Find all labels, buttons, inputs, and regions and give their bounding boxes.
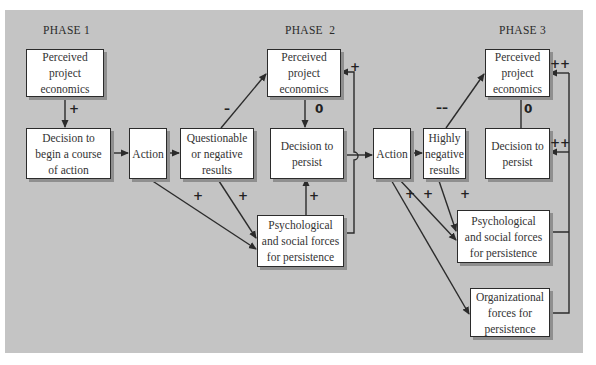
p3-decision-to-persist-box: Decision topersist xyxy=(485,128,550,179)
sign-forces-to-p3-decision: ++ xyxy=(550,137,570,149)
p2-psych-social-forces-box: Psychologicaland social forcesfor persis… xyxy=(257,215,344,267)
sign-p1-perceived-to-decision: + xyxy=(69,103,79,115)
phase-2-label: PHASE 2 xyxy=(285,24,335,36)
sign-psych-to-decision: + xyxy=(309,190,319,202)
sign-action2-to-psych: + xyxy=(423,188,433,200)
p1-decision-to-begin-box: Decision tobegin a courseof action xyxy=(26,128,111,179)
phase-3-label: PHASE 3 xyxy=(499,24,546,36)
sign-forces-to-p3-perceived: ++ xyxy=(550,58,570,70)
sign-p3-perceived-decision: 0 xyxy=(524,103,532,115)
sign-questionable-to-psych: + xyxy=(238,190,248,202)
p1-action-box: Action xyxy=(129,128,167,179)
p2-perceived-economics-box: Perceivedprojecteconomics xyxy=(267,49,341,97)
p2-action-box: Action xyxy=(373,128,411,179)
p3-organizational-forces-box: Organizationalforces forpersistence xyxy=(470,288,550,337)
sign-highly-negative-to-psych: + xyxy=(460,188,470,200)
p2-decision-to-persist-box: Decision topersist xyxy=(270,128,344,179)
phase-1-label: PHASE 1 xyxy=(43,24,90,36)
sign-action1-to-psych: + xyxy=(193,190,203,202)
p3-perceived-economics-box: Perceivedprojecteconomics xyxy=(485,49,550,97)
sign-action2-to-org: + xyxy=(405,188,415,200)
sign-questionable-to-perceived: – xyxy=(224,103,230,115)
p2-questionable-results-box: Questionableor negativeresults xyxy=(180,128,254,179)
sign-psych-feedback-to-perceived: + xyxy=(350,61,360,73)
sign-p2-perceived-to-decision: 0 xyxy=(315,103,323,115)
sign-highly-negative-to-perceived: –– xyxy=(436,102,448,114)
p3-psych-social-forces-box: Psychologicaland social forcesfor persis… xyxy=(457,210,550,263)
p3-highly-negative-results-box: Highlynegativeresults xyxy=(423,128,466,179)
p1-perceived-economics-box: Perceivedprojecteconomics xyxy=(26,49,104,97)
